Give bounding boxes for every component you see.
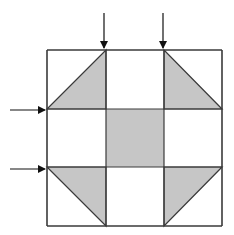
diagram-canvas	[0, 0, 234, 235]
center-square	[106, 109, 164, 167]
quilt-block-diagram	[0, 0, 234, 235]
triangle-bottom-left	[47, 167, 106, 226]
shaded-patches	[47, 50, 222, 226]
triangle-bottom-right	[164, 167, 222, 226]
triangle-top-right	[164, 50, 222, 109]
triangle-top-left	[47, 50, 106, 109]
